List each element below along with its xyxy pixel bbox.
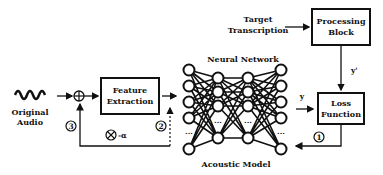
ellipsis-2: ... bbox=[214, 116, 222, 125]
diagram-canvas: Original Audio Feature Extraction 3 -α 2… bbox=[0, 0, 383, 175]
neural-network bbox=[189, 70, 281, 149]
processing-block-label-2: Block bbox=[328, 27, 354, 37]
ellipsis-4: ... bbox=[277, 127, 285, 136]
acoustic-model-caption: Acoustic Model bbox=[200, 159, 270, 169]
feature-extraction-label: Feature bbox=[113, 85, 147, 95]
multiply-icon bbox=[106, 130, 116, 140]
ellipsis-1: ... bbox=[185, 127, 193, 136]
alpha-label: -α bbox=[118, 131, 127, 140]
target-transcription-label-2: Transcription bbox=[228, 25, 289, 35]
y-label: y bbox=[299, 92, 305, 101]
y-prime-label: y' bbox=[350, 66, 358, 75]
step-1-label: 1 bbox=[316, 133, 321, 142]
ellipsis-3: ... bbox=[244, 116, 252, 125]
processing-block-label: Processing bbox=[317, 16, 366, 26]
loss-function-label: Loss bbox=[331, 98, 351, 108]
waveform-icon bbox=[15, 91, 45, 99]
target-transcription-label: Target bbox=[244, 14, 273, 24]
original-audio-label: Original bbox=[12, 107, 49, 117]
step-2-label: 2 bbox=[158, 122, 163, 131]
original-audio-label-2: Audio bbox=[16, 117, 44, 127]
step-3-label: 3 bbox=[68, 122, 73, 131]
neural-network-title: Neural Network bbox=[207, 54, 279, 64]
feature-extraction-label-2: Extraction bbox=[107, 96, 154, 106]
sum-junction-icon bbox=[74, 91, 84, 101]
loss-function-label-2: Function bbox=[321, 109, 361, 119]
